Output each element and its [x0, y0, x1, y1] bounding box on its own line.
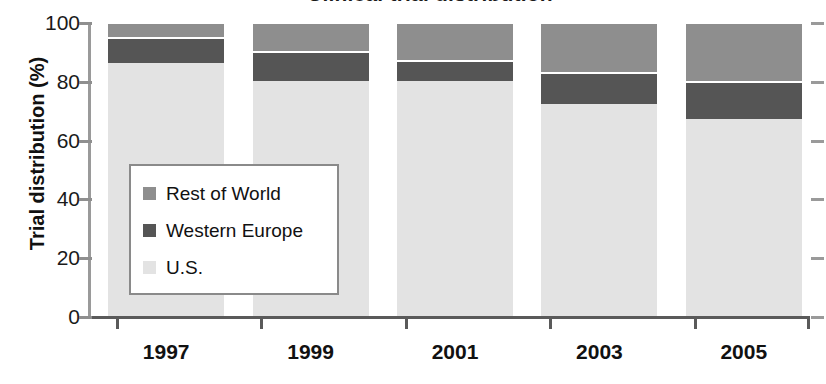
legend-label: Rest of World	[166, 183, 281, 205]
bar-segment-rest-of-world-2005	[686, 22, 802, 81]
bar-group-2003	[541, 22, 657, 316]
y-tick-mark-right-40	[811, 198, 824, 201]
y-tick-mark-left-60	[79, 140, 92, 143]
chart-legend: Rest of WorldWestern EuropeU.S.	[129, 164, 339, 295]
legend-label: Western Europe	[166, 220, 303, 242]
legend-swatch-icon	[143, 261, 156, 274]
x-tick-mark-2001	[405, 318, 408, 329]
y-tick-mark-left-0	[79, 316, 92, 319]
bar-group-2001	[397, 22, 513, 316]
legend-item-u-s[interactable]: U.S.	[143, 249, 337, 286]
bar-segment-rest-of-world-1999	[253, 22, 369, 51]
y-tick-label-20: 20	[26, 247, 80, 268]
y-tick-mark-left-40	[79, 198, 92, 201]
legend-item-western-europe[interactable]: Western Europe	[143, 212, 337, 249]
x-tick-mark-end	[807, 318, 810, 329]
y-tick-mark-right-100	[811, 22, 824, 25]
y-tick-mark-right-0	[811, 316, 824, 319]
x-tick-label-1999: 1999	[287, 340, 334, 364]
y-tick-mark-right-80	[811, 81, 824, 84]
legend-label: U.S.	[166, 257, 203, 279]
y-tick-label-60: 60	[26, 129, 80, 150]
bar-segment-rest-of-world-1997	[108, 22, 224, 37]
y-tick-mark-right-60	[811, 140, 824, 143]
legend-item-rest-of-world[interactable]: Rest of World	[143, 175, 337, 212]
bar-segment-western-europe-2003	[541, 72, 657, 104]
x-tick-mark-1997	[116, 318, 119, 329]
x-tick-mark-2005	[694, 318, 697, 329]
x-axis-line	[88, 316, 810, 319]
y-tick-mark-left-80	[79, 81, 92, 84]
bar-segment-western-europe-1999	[253, 51, 369, 80]
bar-group-2005	[686, 22, 802, 316]
y-axis-line	[88, 22, 91, 316]
y-tick-label-80: 80	[26, 70, 80, 91]
bar-segment-western-europe-2005	[686, 81, 802, 119]
x-tick-label-2001: 2001	[432, 340, 479, 364]
y-tick-label-0: 0	[26, 306, 80, 327]
x-tick-label-2003: 2003	[576, 340, 623, 364]
x-axis-tick-labels: 19971999200120032005	[88, 340, 810, 374]
legend-swatch-icon	[143, 187, 156, 200]
bar-segment-western-europe-2001	[397, 60, 513, 81]
bar-segment-western-europe-1997	[108, 37, 224, 63]
y-tick-label-100: 100	[26, 12, 80, 33]
y-tick-mark-left-100	[79, 22, 92, 25]
y-axis-tick-labels: 100806040200	[18, 0, 80, 384]
x-tick-label-2005: 2005	[720, 340, 767, 364]
bar-segment-u-s-2003	[541, 104, 657, 316]
bar-segment-u-s-2005	[686, 119, 802, 316]
y-tick-label-40: 40	[26, 188, 80, 209]
x-tick-mark-1999	[260, 318, 263, 329]
chart-figure: Clinical trial distribution Trial distri…	[0, 0, 826, 384]
bar-segment-u-s-2001	[397, 81, 513, 316]
chart-title: Clinical trial distribution	[150, 0, 710, 4]
y-tick-mark-left-20	[79, 257, 92, 260]
bar-segment-rest-of-world-2001	[397, 22, 513, 60]
x-tick-label-1997: 1997	[143, 340, 190, 364]
x-tick-mark-2003	[549, 318, 552, 329]
y-tick-mark-right-20	[811, 257, 824, 260]
bar-segment-rest-of-world-2003	[541, 22, 657, 72]
legend-swatch-icon	[143, 224, 156, 237]
